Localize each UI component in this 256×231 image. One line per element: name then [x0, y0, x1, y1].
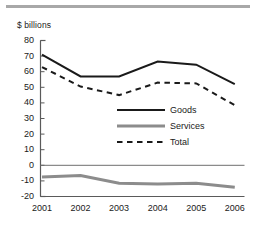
series-group — [42, 55, 235, 188]
series-line-goods — [42, 55, 235, 85]
plot-area — [0, 0, 256, 231]
legend-group — [117, 110, 165, 142]
y-axis-tick-label: 70 — [12, 52, 34, 61]
x-axis-tick-label: 2004 — [141, 204, 175, 213]
x-axis-tick-label: 2001 — [25, 204, 59, 213]
y-axis-tick-label: 30 — [12, 114, 34, 123]
y-axis-tick-label: 0 — [12, 161, 34, 170]
axes-group — [41, 41, 245, 197]
y-axis-tick-label: 40 — [12, 98, 34, 107]
y-axis-tick-label: 10 — [12, 145, 34, 154]
x-axis-tick-label: 2003 — [102, 204, 136, 213]
legend-label-goods: Goods — [170, 106, 197, 115]
y-axis-tick-label: -20 — [12, 192, 34, 201]
y-axis-tick-label: 20 — [12, 130, 34, 139]
y-axis-tick-label: 80 — [12, 36, 34, 45]
x-axis-tick-label: 2002 — [64, 204, 98, 213]
series-line-services — [42, 175, 235, 187]
x-axis-tick-label: 2005 — [179, 204, 213, 213]
chart-figure: $ billions 80706050403020100-10-20 20012… — [0, 0, 256, 231]
y-axis-tick-label: 60 — [12, 67, 34, 76]
legend-label-services: Services — [170, 122, 205, 131]
y-axis-tick-label: 50 — [12, 83, 34, 92]
y-axis-tick-label: -10 — [12, 176, 34, 185]
legend-label-total: Total — [170, 138, 189, 147]
x-axis-tick-label: 2006 — [218, 204, 252, 213]
series-line-total — [42, 67, 235, 105]
